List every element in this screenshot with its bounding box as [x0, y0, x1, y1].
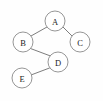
node-label-b: B — [20, 38, 26, 48]
node-label-e: E — [19, 74, 24, 84]
node-label-d: D — [55, 58, 61, 68]
node-label-a: A — [52, 17, 59, 27]
tree-diagram: ABCDE — [0, 0, 103, 101]
graph-edge-b-d — [31, 49, 51, 57]
graph-node-a[interactable]: A — [45, 11, 65, 31]
graph-canvas: ABCDE — [0, 0, 103, 101]
graph-node-d[interactable]: D — [48, 52, 68, 72]
graph-edge-a-b — [31, 27, 47, 36]
node-layer: ABCDE — [12, 11, 90, 88]
graph-node-e[interactable]: E — [12, 68, 32, 88]
graph-node-c[interactable]: C — [70, 32, 90, 52]
graph-edge-a-c — [63, 27, 72, 36]
node-label-c: C — [77, 38, 83, 48]
graph-edge-d-e — [31, 68, 50, 75]
graph-node-b[interactable]: B — [13, 32, 33, 52]
